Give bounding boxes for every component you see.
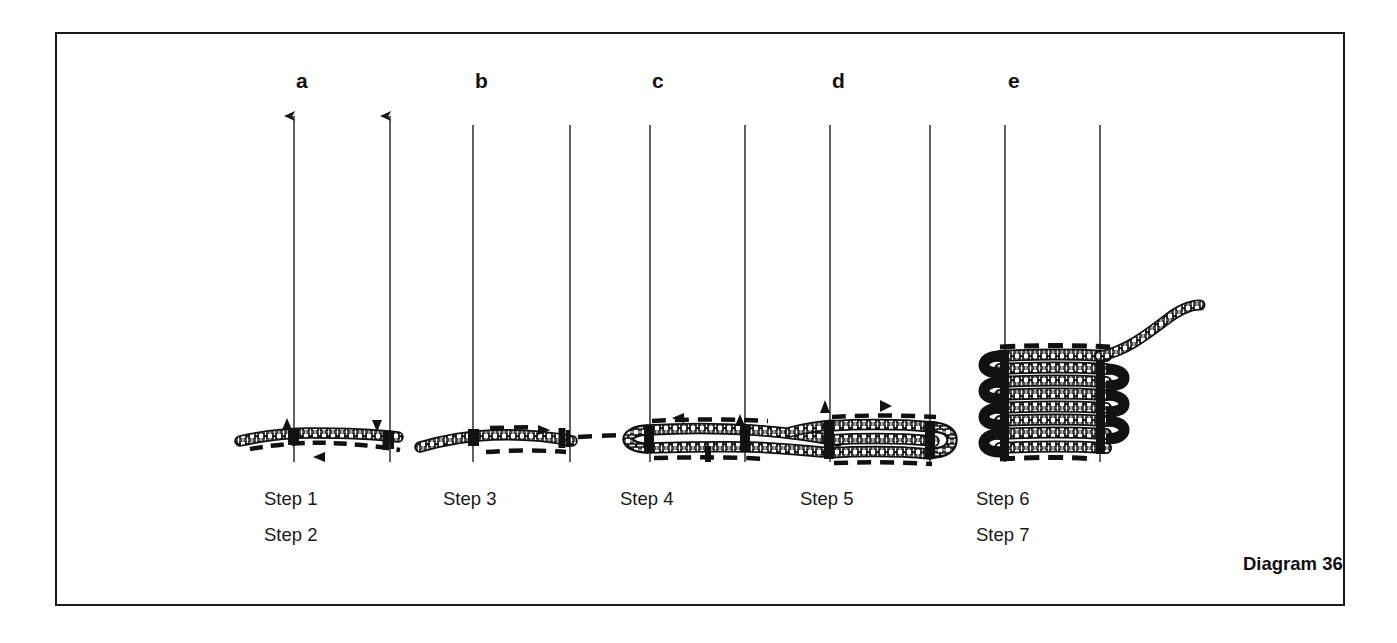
panel-letter-c: c: [652, 70, 664, 91]
step-label-5: Step 5: [800, 490, 854, 509]
step-label-1: Step 1: [264, 490, 318, 509]
step-label-2: Step 2: [264, 526, 318, 545]
step-label-4: Step 4: [620, 490, 674, 509]
panel-letter-e: e: [1008, 70, 1020, 91]
diagram-frame: [55, 32, 1345, 606]
diagram-caption: Diagram 36: [1243, 555, 1343, 574]
panel-letter-a: a: [296, 70, 308, 91]
step-label-7: Step 7: [976, 526, 1030, 545]
diagram-canvas: a b c d e Step 1 Step 2 Step 3 Step 4 St…: [0, 0, 1397, 643]
step-label-6: Step 6: [976, 490, 1030, 509]
panel-letter-d: d: [832, 70, 845, 91]
panel-letter-b: b: [475, 70, 488, 91]
step-label-3: Step 3: [443, 490, 497, 509]
